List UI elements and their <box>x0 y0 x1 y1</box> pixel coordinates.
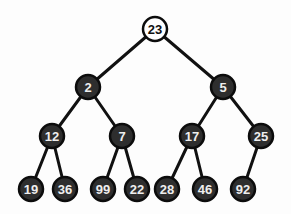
tree-node-5: 5 <box>211 75 235 99</box>
node-label: 92 <box>236 182 250 197</box>
tree-node-36: 36 <box>53 177 77 201</box>
tree-node-25: 25 <box>249 124 273 148</box>
tree-node-46: 46 <box>193 177 217 201</box>
node-label: 17 <box>185 129 199 144</box>
node-label: 28 <box>160 182 174 197</box>
tree-node-19: 19 <box>19 177 43 201</box>
node-label: 2 <box>84 80 91 95</box>
node-label: 5 <box>219 80 226 95</box>
node-label: 46 <box>198 182 212 197</box>
tree-node-22: 22 <box>125 177 149 201</box>
tree-node-28: 28 <box>155 177 179 201</box>
node-label: 36 <box>58 182 72 197</box>
node-label: 19 <box>24 182 38 197</box>
tree-node-2: 2 <box>76 75 100 99</box>
edge-23-5 <box>155 29 223 87</box>
node-label: 25 <box>254 129 268 144</box>
tree-node-92: 92 <box>231 177 255 201</box>
node-label: 12 <box>45 129 59 144</box>
edges-layer <box>31 29 261 189</box>
node-label: 7 <box>118 129 125 144</box>
node-label: 22 <box>130 182 144 197</box>
tree-node-23: 23 <box>143 17 167 41</box>
nodes-layer: 2325127172519369922284692 <box>19 17 273 201</box>
tree-node-99: 99 <box>91 177 115 201</box>
edge-23-2 <box>88 29 155 87</box>
tree-node-7: 7 <box>110 124 134 148</box>
tree-svg: 2325127172519369922284692 <box>0 0 291 214</box>
node-label: 23 <box>148 22 162 37</box>
tree-node-12: 12 <box>40 124 64 148</box>
tree-diagram: 2325127172519369922284692 <box>0 0 291 214</box>
node-label: 99 <box>96 182 110 197</box>
tree-node-17: 17 <box>180 124 204 148</box>
